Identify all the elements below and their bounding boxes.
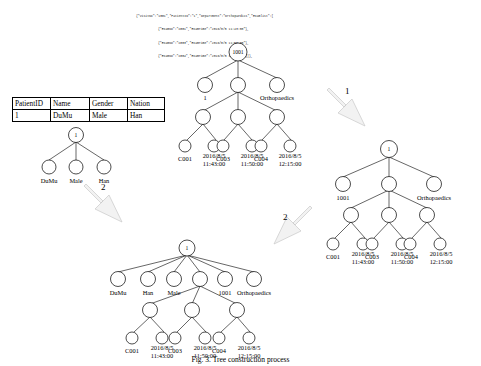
- final-tree-leaf-examno-0: C001: [119, 347, 145, 354]
- node-table-gender: [69, 160, 83, 174]
- final-tree-leaf-date-2: 2016/8/5: [234, 344, 264, 351]
- final-tree-level1-label-0: DuMu: [105, 289, 131, 296]
- node-final-name: [111, 272, 126, 287]
- node-final-gender: [167, 272, 182, 287]
- node-final-examlist: [193, 272, 208, 287]
- final-tree-level1-label-5: Orthopaedics: [232, 289, 276, 296]
- node-final-leaf-examno-1: [126, 332, 138, 344]
- final-tree-leaf-examno-2: C004: [206, 347, 232, 354]
- json-tree-leaf-date-2: 2016/8/5: [275, 152, 305, 159]
- node-examlist: [231, 78, 246, 93]
- node-final-leaf-examno-2: [169, 332, 181, 344]
- node-final-visitno: [218, 272, 233, 287]
- arrow-label-2-right: 2: [283, 212, 288, 222]
- node-final-exam-2: [185, 303, 200, 318]
- node-final-exam-3: [230, 303, 245, 318]
- table-tree-child-label-0: DuMu: [36, 177, 62, 184]
- node-final-leaf-examtime-2: [199, 332, 211, 344]
- node-mr-exam-2: [382, 208, 397, 223]
- node-table-name: [42, 160, 56, 174]
- node-leaf-examno-3: [255, 140, 267, 152]
- table-tree-root-label: 1: [69, 132, 83, 138]
- node-table-nation: [97, 160, 111, 174]
- node-final-leaf-examno-3: [213, 332, 225, 344]
- arrow-label-2-left: 2: [101, 182, 106, 192]
- node-exam-2: [231, 110, 246, 125]
- node-mr-exam-3: [420, 208, 435, 223]
- merged-right-tree-leaf-date-2: 2016/8/5: [426, 250, 456, 257]
- node-patientid-1: [198, 78, 213, 93]
- arrow-2-right: [274, 206, 312, 244]
- figure-caption: Fig. 3. Tree construction process: [0, 355, 481, 364]
- merged-right-tree-leaf-examno-1: C003: [359, 253, 385, 260]
- node-mr-visitno: [336, 177, 351, 192]
- json-tree-level1-label-2: Orthopaedics: [255, 94, 299, 101]
- node-final-leaf-examtime-1: [156, 332, 168, 344]
- node-exam-3: [270, 110, 285, 125]
- merged-right-tree-leaf-examno-0: C001: [320, 253, 346, 260]
- final-tree-level1-label-1: Han: [136, 289, 160, 296]
- node-leaf-examtime-3: [284, 140, 296, 152]
- merged-right-tree-level1-label-2: Orthopaedics: [412, 194, 456, 201]
- node-final-exam-1: [143, 303, 158, 318]
- node-mr-department: [427, 177, 442, 192]
- figure-canvas: {"VisitNo":"1001","PatientID":"1","Depar…: [0, 0, 481, 366]
- node-final-leaf-examtime-3: [243, 332, 255, 344]
- json-tree-leaf-examno-0: C001: [172, 155, 198, 162]
- arrow-label-1: 1: [345, 86, 350, 96]
- node-department: [270, 78, 285, 93]
- json-tree-leaf-examno-2: C004: [248, 155, 274, 162]
- json-tree-leaf-time-2: 12:15:00: [275, 160, 305, 167]
- merged-right-tree-root-label: 1: [382, 146, 396, 152]
- node-mr-leaf-examno-3: [404, 238, 416, 250]
- merged-right-tree-leaf-time-2: 12:15:00: [426, 258, 456, 265]
- final-tree-root-label: 1: [180, 245, 194, 251]
- node-final-nation: [141, 272, 156, 287]
- node-leaf-examno-1: [179, 140, 191, 152]
- final-tree-leaf-examno-1: C003: [162, 347, 188, 354]
- node-leaf-examno-2: [217, 140, 229, 152]
- merged-right-tree-leaf-examno-2: C004: [398, 253, 424, 260]
- node-final-department: [247, 272, 262, 287]
- table-tree-edges: [49, 142, 104, 160]
- node-mr-leaf-examno-1: [327, 238, 339, 250]
- merged-right-tree-level1-label-0: 1001: [330, 194, 356, 201]
- node-mr-leaf-examtime-3: [434, 238, 446, 250]
- node-mr-leaf-examno-2: [366, 238, 378, 250]
- node-mr-exam-1: [344, 208, 359, 223]
- json-tree-root-label: 1001: [228, 49, 248, 55]
- node-mr-examlist: [382, 177, 397, 192]
- node-exam-1: [196, 110, 211, 125]
- json-tree-leaf-examno-1: C003: [210, 155, 236, 162]
- final-tree-level1-label-2: Male: [162, 289, 186, 296]
- table-tree-child-label-1: Male: [63, 177, 89, 184]
- json-tree-level1-label-0: 1: [195, 94, 215, 101]
